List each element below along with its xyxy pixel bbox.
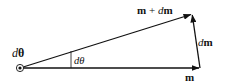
vector-m-label: m — [185, 71, 194, 83]
vector-m-plus-dm-label: m + dm — [137, 4, 173, 16]
out-of-page-axis-icon — [16, 64, 23, 71]
vector-diagram: dθ dθ m dm m + dm — [0, 0, 228, 83]
vector-dm-label: dm — [198, 36, 213, 48]
angle-label: dθ — [74, 55, 84, 66]
origin-label: dθ — [12, 46, 24, 60]
vector-m-plus-dm-arrow — [20, 15, 191, 69]
